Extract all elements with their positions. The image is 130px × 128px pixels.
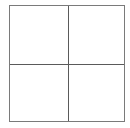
two-by-two-grid: [9, 5, 125, 122]
horizontal-divider: [10, 64, 124, 65]
